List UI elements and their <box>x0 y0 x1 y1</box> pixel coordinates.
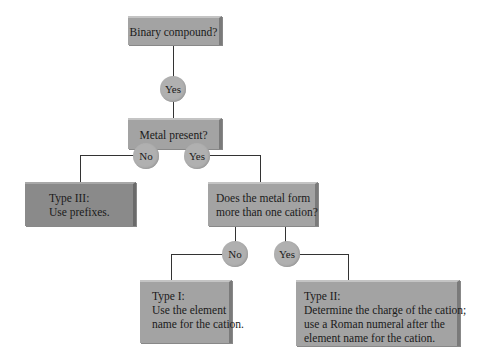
connector-yes-type2-v <box>348 254 349 282</box>
answer-no-cation: No <box>222 241 248 267</box>
answer-label: Yes <box>189 150 205 162</box>
type-line: Use the element <box>152 303 229 317</box>
type-line: Determine the charge of the cation; <box>304 303 457 317</box>
type-line: element name for the cation. <box>304 331 457 345</box>
node-binary-compound: Binary compound? <box>128 16 222 45</box>
connector-yes-q3-v <box>260 155 261 183</box>
answer-no-metal: No <box>133 143 159 169</box>
node-label: Binary compound? <box>130 25 218 39</box>
connector-yes-type2-h <box>298 254 349 255</box>
answer-yes-cation: Yes <box>274 241 300 267</box>
connector-no-type1-h <box>171 254 223 255</box>
type-title: Type I: <box>152 289 229 303</box>
answer-yes-metal: Yes <box>184 143 210 169</box>
answer-label: No <box>228 248 241 260</box>
type-title: Type II: <box>304 289 457 303</box>
connector-no-type3-v <box>80 155 81 183</box>
answer-label: Yes <box>165 83 181 95</box>
type-title: Type III: <box>49 191 133 205</box>
connector-q3-yes <box>285 225 286 242</box>
node-type-i: Type I: Use the element name for the cat… <box>140 280 232 343</box>
type-line: name for the cation. <box>152 317 229 331</box>
answer-yes-binary: Yes <box>160 76 186 102</box>
connector-yes-q3-h <box>210 155 261 156</box>
node-type-ii: Type II: Determine the charge of the cat… <box>296 280 460 346</box>
connector-q3-no <box>235 225 236 242</box>
answer-label: Yes <box>279 248 295 260</box>
node-type-iii: Type III: Use prefixes. <box>25 182 136 226</box>
connector-q1-a1 <box>173 45 174 80</box>
type-line: use a Roman numeral after the <box>304 317 457 331</box>
connector-no-type3-h <box>80 155 134 156</box>
connector-a1-q2 <box>173 100 174 120</box>
question-line: more than one cation? <box>216 205 315 219</box>
connector-no-type1-v <box>171 254 172 282</box>
question-line: Does the metal form <box>216 191 315 205</box>
answer-label: No <box>139 150 152 162</box>
node-multiple-cations: Does the metal form more than one cation… <box>208 182 318 226</box>
node-label: Metal present? <box>139 128 207 142</box>
type-line: Use prefixes. <box>49 205 133 219</box>
